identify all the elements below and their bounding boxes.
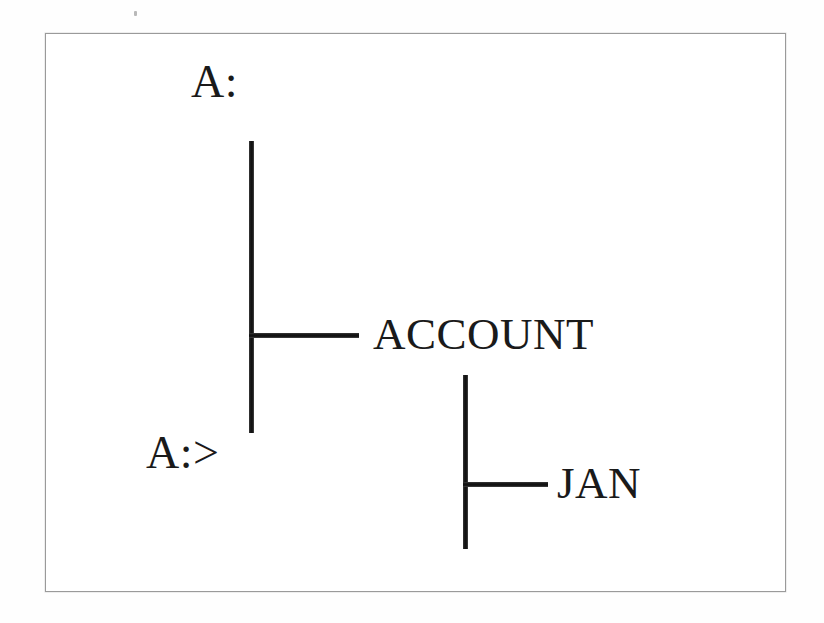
tree-branch-horizontal-line-jan bbox=[463, 482, 548, 487]
scan-speck-artifact bbox=[134, 11, 137, 16]
tree-node-label-jan: JAN bbox=[557, 461, 641, 506]
tree-trunk-vertical-line bbox=[249, 141, 254, 433]
scanned-page: A: ACCOUNT JAN A:> bbox=[0, 0, 824, 623]
page-border-frame: A: ACCOUNT JAN A:> bbox=[45, 33, 786, 592]
dos-command-prompt: A:> bbox=[146, 430, 219, 476]
tree-subtrunk-vertical-line bbox=[463, 375, 468, 549]
drive-root-label: A: bbox=[191, 59, 238, 105]
tree-branch-horizontal-line-account bbox=[249, 333, 359, 338]
tree-node-label-account: ACCOUNT bbox=[373, 312, 594, 357]
